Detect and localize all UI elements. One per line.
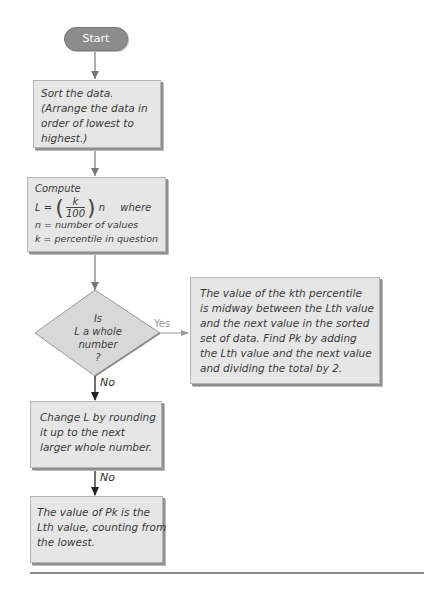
compute-title: Compute — [35, 181, 158, 196]
formula-lhs: L = — [35, 202, 52, 213]
decision-text: Is L a whole number ? — [68, 312, 128, 364]
round-up-box: Change L by rounding it up to the next l… — [30, 401, 162, 468]
yes-box-line: the Lth value and the next value — [200, 346, 370, 361]
definition-n: n = number of values — [35, 218, 158, 232]
yes-box-line: and dividing the total by 2. — [200, 361, 370, 376]
change-box-line: larger whole number. — [40, 440, 152, 455]
sort-line: highest.) — [41, 131, 153, 146]
no-label: No — [100, 376, 115, 389]
formula-where: where — [120, 202, 151, 213]
fraction: k100 — [66, 196, 85, 219]
change-box-line: Change L by rounding — [40, 410, 152, 425]
fraction-numerator: k — [66, 196, 85, 208]
yes-result-box: The value of the kth percentile is midwa… — [190, 277, 380, 384]
final-box-line: Lth value, counting from — [37, 520, 156, 535]
sort-data-box: Sort the data. (Arrange the data in orde… — [33, 80, 161, 148]
yes-box-line: set of data. Find Pk by adding — [200, 331, 370, 346]
final-box-line: the lowest. — [37, 535, 156, 550]
decision-line: L a whole — [68, 325, 128, 338]
final-result-box: The value of Pk is the Lth value, counti… — [30, 496, 163, 563]
compute-box: Compute L = (k100) n where n = number of… — [27, 177, 166, 252]
decision-line: number — [68, 338, 128, 351]
start-terminal: Start — [64, 27, 128, 51]
change-box-line: it up to the next — [40, 425, 152, 440]
yes-box-line: is midway between the Lth value — [200, 301, 370, 316]
no-label: No — [100, 471, 115, 484]
formula-rhs: n — [99, 202, 105, 213]
start-label: Start — [83, 32, 110, 45]
definition-k: k = percentile in question — [35, 232, 158, 246]
yes-box-line: The value of the kth percentile — [200, 286, 370, 301]
compute-formula: L = (k100) n where — [35, 196, 158, 218]
decision-line: Is — [68, 312, 128, 325]
decision-line: ? — [68, 351, 128, 364]
bottom-divider — [30, 572, 424, 574]
yes-box-line: and the next value in the sorted — [200, 316, 370, 331]
sort-line: order of lowest to — [41, 116, 153, 131]
yes-label: Yes — [154, 318, 170, 329]
final-box-line: The value of Pk is the — [37, 505, 156, 520]
sort-line: Sort the data. — [41, 86, 153, 101]
sort-line: (Arrange the data in — [41, 101, 153, 116]
